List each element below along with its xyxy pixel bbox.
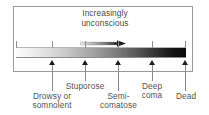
label-dead: Dead	[171, 92, 201, 101]
scale-tick	[118, 41, 119, 48]
scale-tick	[16, 41, 17, 48]
scale-tick	[152, 41, 153, 48]
scale-tick	[85, 41, 86, 48]
leader-line-drowsy	[52, 65, 53, 91]
label-stuporose: Stuporose	[59, 82, 111, 91]
right-arrow-gradient-icon	[80, 33, 126, 40]
leader-line-dead	[185, 65, 186, 91]
leader-line-stuporose	[85, 65, 86, 81]
scale-tick	[52, 41, 53, 48]
consciousness-scale-figure: Increasingly unconscious	[0, 0, 209, 115]
scale-tick	[185, 41, 186, 48]
leader-line-semicomatose	[118, 65, 119, 91]
label-drowsy-or-somnolent: Drowsy or somnolent	[14, 92, 90, 111]
leader-line-deepcoma	[152, 65, 153, 81]
diagram-title: Increasingly unconscious	[60, 9, 150, 28]
consciousness-gradient-bar	[16, 47, 186, 58]
label-deep-coma: Deep coma	[135, 82, 169, 101]
